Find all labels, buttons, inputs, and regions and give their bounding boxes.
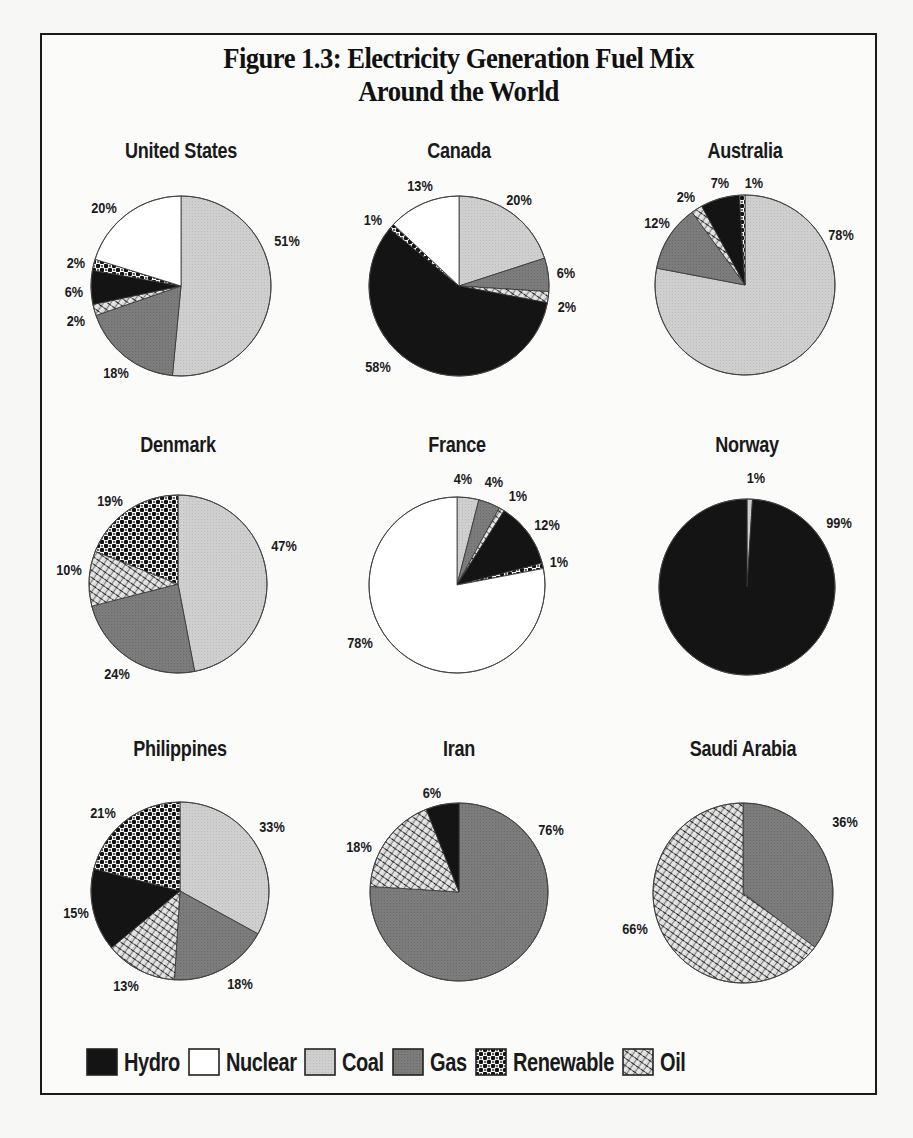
- chart-title-iran: Iran: [443, 736, 475, 762]
- chart-title-philippines: Philippines: [133, 736, 227, 762]
- slice-label-hydro: 6%: [423, 784, 441, 801]
- legend: HydroNuclearCoalGasRenewableOil: [86, 1045, 693, 1079]
- pie-charts-svg: [0, 0, 913, 1138]
- slice-label-hydro: 99%: [826, 514, 852, 531]
- legend-label: Coal: [342, 1048, 384, 1077]
- slice-label-hydro: 12%: [534, 516, 560, 533]
- legend-item-coal: Coal: [304, 1048, 384, 1077]
- legend-item-oil: Oil: [622, 1048, 685, 1077]
- legend-label: Renewable: [513, 1048, 614, 1077]
- slice-label-oil: 13%: [113, 977, 139, 994]
- legend-item-hydro: Hydro: [86, 1048, 180, 1077]
- slice-label-oil: 1%: [509, 487, 527, 504]
- slice-label-coal: 20%: [506, 191, 532, 208]
- pie-denmark: [89, 495, 267, 673]
- slice-label-nuclear: 78%: [347, 634, 373, 651]
- slice-label-oil: 2%: [67, 312, 85, 329]
- legend-item-nuclear: Nuclear: [188, 1048, 297, 1077]
- slice-label-gas: 36%: [832, 813, 858, 830]
- legend-swatch-coal-icon: [304, 1048, 336, 1076]
- slice-label-renewable: 1%: [550, 553, 568, 570]
- slice-label-gas: 24%: [104, 665, 130, 682]
- legend-item-gas: Gas: [392, 1048, 466, 1077]
- pie-slice-coal: [178, 495, 267, 671]
- legend-label: Nuclear: [226, 1048, 297, 1077]
- pie-slice-hydro: [659, 499, 835, 675]
- slice-label-renewable: 1%: [364, 211, 382, 228]
- slice-label-nuclear: 20%: [91, 199, 117, 216]
- slice-label-coal: 51%: [274, 232, 300, 249]
- pie-france: [369, 497, 545, 673]
- chart-title-united-states: United States: [125, 138, 237, 164]
- pie-saudi-arabia: [653, 803, 833, 983]
- slice-label-gas: 18%: [227, 975, 253, 992]
- slice-label-hydro: 6%: [65, 283, 83, 300]
- chart-title-denmark: Denmark: [140, 432, 215, 458]
- legend-item-renewable: Renewable: [475, 1048, 614, 1077]
- slice-label-hydro: 15%: [63, 904, 89, 921]
- chart-title-australia: Australia: [708, 138, 783, 164]
- pie-iran: [370, 803, 548, 981]
- pie-united-states: [91, 196, 271, 376]
- legend-label: Hydro: [124, 1048, 180, 1077]
- chart-title-france: France: [428, 432, 486, 458]
- slice-label-gas: 4%: [485, 473, 503, 490]
- slice-label-oil: 2%: [677, 188, 695, 205]
- slice-label-coal: 1%: [747, 469, 765, 486]
- slice-label-renewable: 21%: [90, 804, 116, 821]
- slice-label-oil: 10%: [56, 561, 82, 578]
- slice-label-hydro: 7%: [711, 174, 729, 191]
- pie-philippines: [91, 802, 269, 980]
- chart-title-saudi-arabia: Saudi Arabia: [690, 736, 797, 762]
- slice-label-gas: 76%: [538, 821, 564, 838]
- legend-label: Gas: [430, 1048, 467, 1077]
- legend-swatch-oil-icon: [622, 1048, 654, 1076]
- slice-label-oil: 18%: [346, 838, 372, 855]
- legend-swatch-gas-icon: [392, 1048, 424, 1076]
- slice-label-hydro: 58%: [365, 358, 391, 375]
- pie-norway: [659, 499, 835, 675]
- slice-label-oil: 66%: [622, 920, 648, 937]
- slice-label-nuclear: 13%: [407, 177, 433, 194]
- legend-swatch-nuclear-icon: [188, 1048, 220, 1076]
- slice-label-oil: 2%: [558, 298, 576, 315]
- pie-australia: [655, 195, 835, 375]
- chart-title-canada: Canada: [427, 138, 491, 164]
- legend-swatch-hydro-icon: [86, 1048, 118, 1076]
- slice-label-gas: 18%: [103, 364, 129, 381]
- legend-swatch-renewable-icon: [475, 1048, 507, 1076]
- slice-label-coal: 33%: [259, 818, 285, 835]
- slice-label-renewable: 19%: [97, 492, 123, 509]
- slice-label-renewable: 2%: [67, 254, 85, 271]
- slice-label-coal: 78%: [828, 226, 854, 243]
- slice-label-gas: 12%: [644, 214, 670, 231]
- slice-label-renewable: 1%: [745, 174, 763, 191]
- slice-label-gas: 6%: [557, 264, 575, 281]
- pie-canada: [369, 196, 549, 376]
- charts-container: United States51%18%2%6%2%20%Canada20%6%2…: [0, 0, 913, 1138]
- chart-title-norway: Norway: [715, 432, 779, 458]
- legend-label: Oil: [660, 1048, 685, 1077]
- slice-label-coal: 47%: [271, 537, 297, 554]
- pie-slice-coal: [172, 196, 271, 376]
- slice-label-coal: 4%: [454, 470, 472, 487]
